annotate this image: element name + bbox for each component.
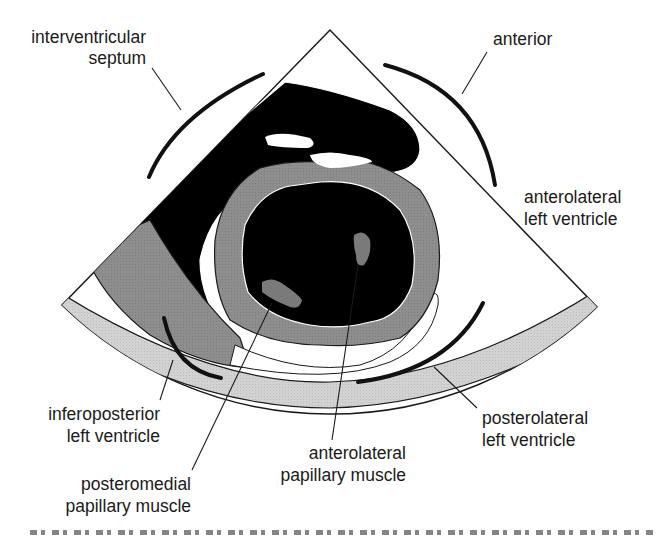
cropped-caption <box>30 526 657 535</box>
lv-cavity <box>242 182 414 327</box>
label-interventricular-septum: interventricular septum <box>31 27 146 68</box>
svg-text:anterolateral: anterolateral <box>309 443 406 463</box>
svg-text:papillary muscle: papillary muscle <box>281 465 406 485</box>
svg-text:left ventricle: left ventricle <box>67 426 160 446</box>
label-anterior: anterior <box>493 29 553 49</box>
label-posteromedial-pm: posteromedial papillary muscle <box>66 474 191 516</box>
label-posterolateral-lv: posterolateral left ventricle <box>482 408 588 450</box>
svg-text:left ventricle: left ventricle <box>524 209 617 229</box>
svg-text:posteromedial: posteromedial <box>81 474 191 494</box>
svg-text:left ventricle: left ventricle <box>482 430 575 450</box>
leader-septum <box>152 68 181 110</box>
leader-anterior <box>462 52 487 94</box>
svg-text:papillary muscle: papillary muscle <box>66 496 191 516</box>
label-anterolateral-pm: anterolateral papillary muscle <box>281 443 406 485</box>
echo-diagram: interventricular septum anterior anterol… <box>0 0 657 535</box>
svg-text:inferoposterior: inferoposterior <box>48 404 160 424</box>
svg-text:anterolateral: anterolateral <box>524 187 621 207</box>
label-inferoposterior-lv: inferoposterior left ventricle <box>48 404 160 446</box>
svg-text:septum: septum <box>89 48 146 68</box>
svg-text:anterior: anterior <box>493 29 553 49</box>
svg-text:interventricular: interventricular <box>31 27 146 47</box>
label-anterolateral-lv: anterolateral left ventricle <box>524 187 621 229</box>
svg-text:posterolateral: posterolateral <box>482 408 588 428</box>
